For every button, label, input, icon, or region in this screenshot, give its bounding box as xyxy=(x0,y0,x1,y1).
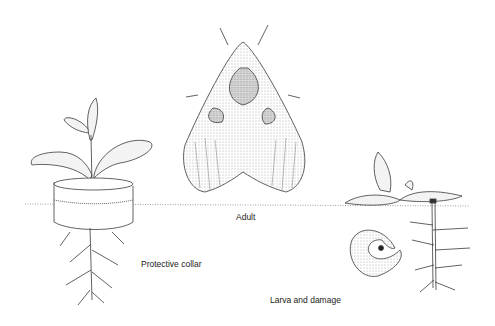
adult-moth xyxy=(184,25,305,192)
illustration xyxy=(0,0,495,326)
label-adult: Adult xyxy=(236,212,255,222)
cutworm-diagram: Adult Protective collar Larva and damage xyxy=(0,0,495,326)
larva xyxy=(350,230,401,276)
label-protective-collar: Protective collar xyxy=(141,259,201,269)
label-larva-and-damage: Larva and damage xyxy=(270,295,341,305)
plant-with-collar xyxy=(31,98,152,305)
